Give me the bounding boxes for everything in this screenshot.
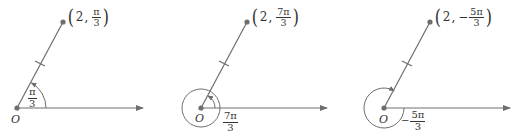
terminal-ray (384, 22, 430, 108)
angle-fraction: 5π 3 (469, 7, 483, 28)
polar-panel-neg-5pi-over-3: O ( 2, − 5π 3 ) − 5π 3 (0, 0, 173, 138)
angle-fraction: 5π 3 (410, 110, 425, 132)
fraction-denominator: 3 (472, 18, 480, 28)
polar-point (427, 19, 432, 24)
negative-fraction: − 5π 3 (458, 7, 483, 28)
minus-sign: − (401, 116, 409, 126)
separator: , (451, 11, 455, 23)
angle-label: − 5π 3 (401, 110, 425, 132)
angle-denominator: 3 (415, 122, 421, 133)
point-coordinate-label: ( 2, − 5π 3 ) (434, 7, 492, 28)
origin-point (381, 105, 386, 110)
angle-numerator: 5π (410, 110, 425, 122)
origin-label: O (379, 114, 388, 125)
open-paren: ( (435, 7, 441, 27)
close-paren: ) (485, 7, 491, 27)
radius-value: 2 (443, 11, 451, 23)
minus-sign: − (458, 11, 468, 23)
